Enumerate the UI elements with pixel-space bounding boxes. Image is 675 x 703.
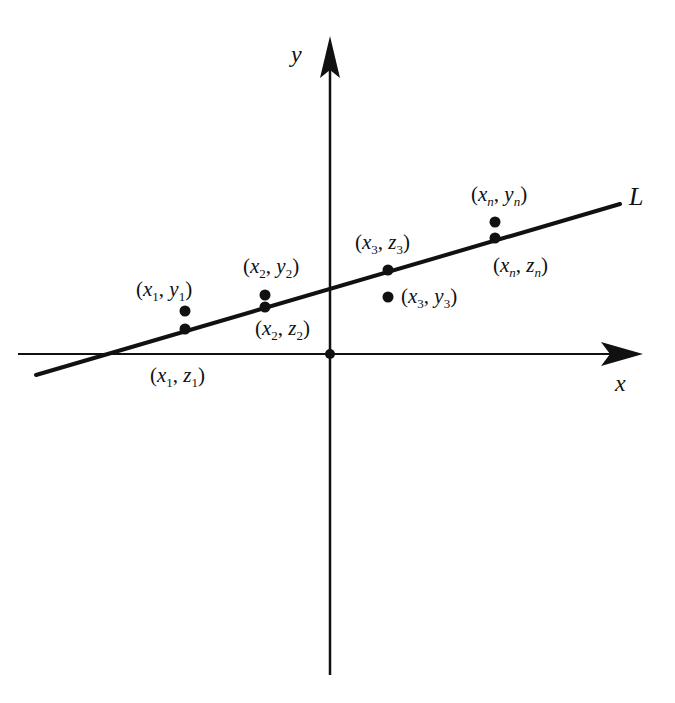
label-x2-z2: (x2, z2) <box>255 316 310 343</box>
point-x2-y2 <box>260 290 271 301</box>
point-x2-z2 <box>260 302 271 313</box>
svg-text:(x2, y2): (x2, y2) <box>243 254 299 281</box>
svg-text:(x1, y1): (x1, y1) <box>136 277 192 304</box>
svg-text:(xn, zn): (xn, zn) <box>493 253 548 280</box>
point-xn-yn <box>490 217 501 228</box>
label-x3-y3: (x3, y3) <box>401 284 457 311</box>
svg-text:(xn, yn): (xn, yn) <box>471 182 527 209</box>
point-x3-y3 <box>383 292 394 303</box>
label-x1-y1: (x1, y1) <box>136 277 192 304</box>
label-xn-zn: (xn, zn) <box>493 253 548 280</box>
label-x2-y2: (x2, y2) <box>243 254 299 281</box>
y-axis-label: y <box>289 41 302 67</box>
line-label-L: L <box>628 182 643 211</box>
x-axis-label: x <box>614 370 626 396</box>
svg-text:(x3, z3): (x3, z3) <box>355 230 410 257</box>
origin-point <box>325 349 335 359</box>
label-x3-z3: (x3, z3) <box>355 230 410 257</box>
point-x1-z1 <box>180 324 191 335</box>
label-x1-z1: (x1, z1) <box>150 363 205 390</box>
regression-line-L <box>36 204 620 375</box>
svg-text:(x2, z2): (x2, z2) <box>255 316 310 343</box>
label-xn-yn: (xn, yn) <box>471 182 527 209</box>
svg-text:(x1, z1): (x1, z1) <box>150 363 205 390</box>
point-xn-zn <box>490 233 501 244</box>
point-x3-z3 <box>383 265 394 276</box>
point-x1-y1 <box>180 306 191 317</box>
regression-diagram: y x L (x1, y1) (x1, z1) (x2, y2) (x2, z2… <box>0 0 675 703</box>
svg-text:(x3, y3): (x3, y3) <box>401 284 457 311</box>
